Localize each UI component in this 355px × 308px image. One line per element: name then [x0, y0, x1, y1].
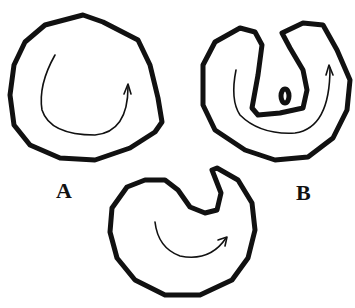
shape-a — [10, 15, 162, 160]
shape-b — [203, 23, 350, 160]
shape-b-oval-icon — [281, 89, 289, 103]
diagram-canvas — [0, 0, 355, 308]
label-a: A — [56, 180, 72, 202]
shape-a-outline — [10, 15, 162, 160]
shape-middle — [110, 168, 255, 295]
label-b: B — [296, 182, 311, 204]
shape-middle-outline — [110, 168, 255, 295]
